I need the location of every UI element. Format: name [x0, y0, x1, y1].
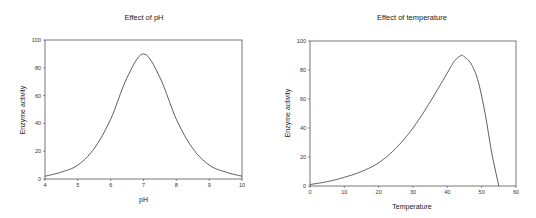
x-tick-label: 50 [479, 189, 485, 195]
y-tick-label: 60 [35, 93, 41, 99]
x-tick-label: 10 [239, 182, 245, 188]
y-axis-label: Enzyme activity [284, 88, 292, 137]
x-tick-label: 10 [341, 189, 347, 195]
chart-title: Effect of temperature [377, 13, 447, 22]
plot-area [45, 40, 242, 179]
y-tick-label: 100 [32, 37, 41, 43]
y-tick-label: 0 [38, 176, 41, 182]
x-tick-label: 60 [513, 189, 519, 195]
ph-chart-svg: Effect of pH 45678910 020406080100 pH En… [0, 0, 268, 218]
plot-frame [45, 40, 242, 179]
temperature-effect-chart: Effect of temperature 0102030405060 0204… [268, 0, 536, 218]
x-tick-label: 7 [142, 182, 145, 188]
chart-title: Effect of pH [124, 13, 163, 22]
data-line [310, 55, 499, 186]
x-axis-label: Temperature [392, 203, 431, 211]
y-tick-label: 60 [300, 96, 306, 102]
y-tick-label: 40 [300, 125, 306, 131]
ph-effect-chart: Effect of pH 45678910 020406080100 pH En… [0, 0, 268, 218]
y-axis-ticks: 020406080100 [32, 37, 45, 182]
x-tick-label: 6 [109, 182, 112, 188]
x-tick-label: 9 [208, 182, 211, 188]
y-tick-label: 40 [35, 120, 41, 126]
data-line [45, 54, 242, 176]
x-tick-label: 8 [175, 182, 178, 188]
x-tick-label: 4 [43, 182, 46, 188]
y-tick-label: 20 [35, 148, 41, 154]
x-tick-label: 20 [376, 189, 382, 195]
x-axis-ticks: 45678910 [43, 179, 245, 188]
temperature-chart-svg: Effect of temperature 0102030405060 0204… [268, 0, 536, 218]
x-tick-label: 5 [76, 182, 79, 188]
x-tick-label: 40 [444, 189, 450, 195]
plot-area [310, 41, 516, 186]
x-tick-label: 0 [308, 189, 311, 195]
y-axis-ticks: 020406080100 [297, 38, 310, 189]
y-tick-label: 80 [35, 65, 41, 71]
y-tick-label: 80 [300, 67, 306, 73]
x-axis-label: pH [139, 196, 148, 204]
y-tick-label: 20 [300, 154, 306, 160]
y-tick-label: 0 [303, 183, 306, 189]
y-tick-label: 100 [297, 38, 306, 44]
y-axis-label: Enzyme activity [19, 85, 27, 134]
x-tick-label: 30 [410, 189, 416, 195]
x-axis-ticks: 0102030405060 [308, 186, 519, 195]
